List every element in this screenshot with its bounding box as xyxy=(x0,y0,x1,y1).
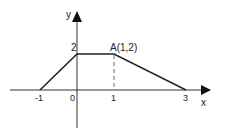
y-axis-label: y xyxy=(66,9,71,20)
x-tick-0: 0 xyxy=(70,93,75,103)
point-a-label: A(1,2) xyxy=(110,42,137,53)
x-tick-3: 3 xyxy=(183,93,188,103)
x-axis-arrow-icon xyxy=(201,85,211,95)
x-tick-neg1: -1 xyxy=(35,93,43,103)
y-axis-arrow-icon xyxy=(72,11,82,22)
x-tick-1: 1 xyxy=(111,93,116,103)
function-line xyxy=(40,54,186,90)
function-graph: y x 2 A(1,2) -1 0 1 3 xyxy=(0,0,228,138)
y-tick-2: 2 xyxy=(71,42,77,53)
x-axis-label: x xyxy=(201,97,206,108)
